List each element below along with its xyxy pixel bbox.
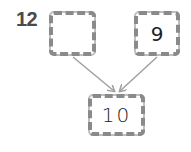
- answer-box-empty[interactable]: [49, 11, 96, 56]
- box-right: 9: [134, 11, 180, 56]
- arrow-left-to-bottom: [73, 57, 114, 91]
- box-right-value: 9: [151, 22, 164, 46]
- box-bottom-value: 10: [102, 103, 131, 127]
- box-bottom: 10: [88, 94, 145, 136]
- arrow-right-to-bottom: [120, 57, 157, 91]
